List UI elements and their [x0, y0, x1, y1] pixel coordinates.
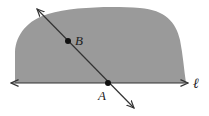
label-line-l: ℓ [193, 76, 199, 91]
label-a: A [97, 88, 106, 103]
diagram-canvas: B A ℓ [0, 0, 209, 116]
shaded-region [15, 7, 186, 83]
point-b [65, 38, 71, 44]
point-a [105, 80, 111, 86]
label-b: B [75, 33, 83, 48]
